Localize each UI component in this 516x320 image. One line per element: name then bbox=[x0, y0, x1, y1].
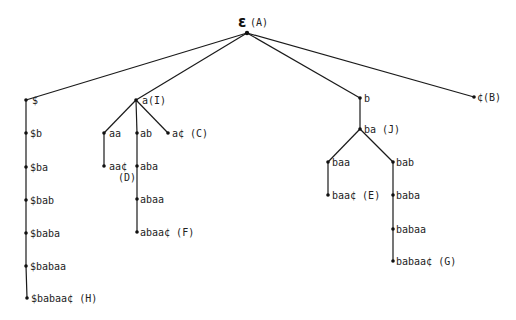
node-dot bbox=[472, 95, 476, 99]
node-dot bbox=[25, 296, 29, 300]
node-label: $ bbox=[32, 95, 38, 106]
node-label: bab bbox=[396, 157, 414, 168]
tree-node: $b bbox=[24, 128, 42, 139]
node-label: baa bbox=[332, 157, 350, 168]
tree-node: $baba bbox=[24, 228, 60, 239]
node-label: $b bbox=[30, 128, 42, 139]
tree-edge bbox=[26, 33, 247, 100]
tree-node: abaa¢ (F) bbox=[135, 227, 194, 238]
node-dot bbox=[102, 131, 106, 135]
node-dot bbox=[135, 197, 139, 201]
node-label: a(I) bbox=[142, 95, 166, 106]
node-label: $baba bbox=[30, 228, 60, 239]
root-tag-label: (A) bbox=[250, 17, 268, 28]
node-label: aa¢ bbox=[109, 161, 127, 172]
tree-node: babaa bbox=[391, 224, 426, 235]
node-label: (D) bbox=[118, 172, 136, 183]
node-dot bbox=[24, 131, 28, 135]
node-dot bbox=[135, 230, 139, 234]
tree-node: $bab bbox=[24, 195, 54, 206]
tree-edge bbox=[136, 100, 137, 133]
tree-edge bbox=[136, 33, 247, 100]
root-epsilon-label: ε bbox=[238, 13, 246, 31]
node-label: b bbox=[364, 93, 370, 104]
tree-node: (D) bbox=[118, 172, 136, 183]
node-dot bbox=[24, 198, 28, 202]
node-label: baba bbox=[396, 190, 420, 201]
tree-node: ab bbox=[135, 128, 152, 139]
node-dot bbox=[391, 193, 395, 197]
node-label: aa bbox=[109, 128, 121, 139]
tree-node: babaa¢ (G) bbox=[391, 256, 456, 267]
tree-node: aba bbox=[135, 161, 158, 172]
root-node: ε (A) bbox=[238, 13, 268, 35]
node-label: babaa bbox=[396, 224, 426, 235]
node-label: ba (J) bbox=[364, 124, 400, 135]
tree-node: $babaa bbox=[24, 261, 66, 272]
tree-nodes: $$b$ba$bab$baba$babaa$babaa¢ (H)a(I)aaaa… bbox=[24, 92, 501, 304]
node-label: $babaa¢ (H) bbox=[31, 293, 97, 304]
tree-node: a(I) bbox=[134, 95, 166, 106]
node-dot bbox=[24, 165, 28, 169]
tree-node: ba (J) bbox=[358, 124, 400, 135]
node-dot bbox=[24, 98, 28, 102]
suffix-trie-diagram: $$b$ba$bab$baba$babaa$babaa¢ (H)a(I)aaaa… bbox=[0, 0, 516, 320]
node-dot bbox=[358, 96, 362, 100]
tree-node: aa¢ bbox=[102, 161, 127, 172]
node-label: abaa bbox=[140, 194, 164, 205]
node-label: a¢ (C) bbox=[172, 128, 208, 139]
node-label: aba bbox=[140, 161, 158, 172]
tree-node: $babaa¢ (H) bbox=[25, 293, 97, 304]
node-dot bbox=[24, 231, 28, 235]
tree-edge bbox=[26, 266, 27, 298]
tree-edge bbox=[247, 33, 474, 97]
node-dot bbox=[391, 227, 395, 231]
node-label: babaa¢ (G) bbox=[396, 256, 456, 267]
node-dot bbox=[135, 131, 139, 135]
tree-node: a¢ (C) bbox=[166, 128, 208, 139]
tree-node: baba bbox=[391, 190, 420, 201]
node-label: ¢(B) bbox=[477, 92, 501, 103]
tree-node: bab bbox=[391, 157, 414, 168]
node-label: $babaa bbox=[30, 261, 66, 272]
node-dot bbox=[102, 164, 106, 168]
tree-node: ¢(B) bbox=[472, 92, 501, 103]
node-dot bbox=[391, 259, 395, 263]
node-dot bbox=[391, 160, 395, 164]
node-dot bbox=[24, 264, 28, 268]
node-dot bbox=[134, 98, 138, 102]
node-dot bbox=[326, 193, 330, 197]
node-label: ab bbox=[140, 128, 152, 139]
node-dot bbox=[166, 131, 170, 135]
tree-node: $ba bbox=[24, 162, 48, 173]
node-label: $bab bbox=[30, 195, 54, 206]
tree-node: baa bbox=[326, 157, 350, 168]
node-dot bbox=[358, 127, 362, 131]
node-label: baa¢ (E) bbox=[332, 190, 380, 201]
tree-edge bbox=[247, 33, 360, 98]
tree-node: baa¢ (E) bbox=[326, 190, 380, 201]
tree-node: aa bbox=[102, 128, 121, 139]
node-dot bbox=[326, 160, 330, 164]
root-node-dot bbox=[245, 31, 249, 35]
node-dot bbox=[135, 164, 139, 168]
tree-node: abaa bbox=[135, 194, 164, 205]
node-label: abaa¢ (F) bbox=[140, 227, 194, 238]
node-label: $ba bbox=[30, 162, 48, 173]
